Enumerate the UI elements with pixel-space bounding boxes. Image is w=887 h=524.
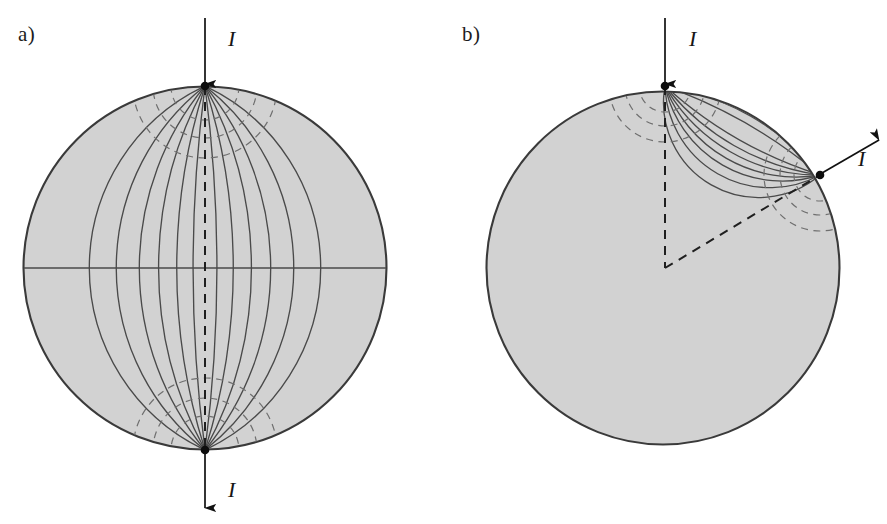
- outlet-contact-dot-b: [816, 171, 825, 180]
- figure-current-flow-circular-conductor: a): [0, 0, 887, 524]
- inlet-contact-dot-b: [661, 82, 670, 91]
- inlet-current-label-a: I: [227, 26, 237, 51]
- panel-b-diagram: I I: [444, 0, 887, 524]
- outlet-contact-dot-a: [201, 446, 210, 455]
- panel-a: a): [0, 0, 443, 524]
- panel-b: b): [444, 0, 887, 524]
- inlet-contact-dot-a: [201, 82, 210, 91]
- disk-b: [487, 92, 840, 445]
- panel-a-diagram: I I: [0, 0, 443, 524]
- outlet-current-label-b: I: [857, 146, 867, 171]
- outlet-arrow-b: [822, 140, 879, 173]
- inlet-current-label-b: I: [688, 26, 698, 51]
- outlet-current-label-a: I: [227, 477, 237, 502]
